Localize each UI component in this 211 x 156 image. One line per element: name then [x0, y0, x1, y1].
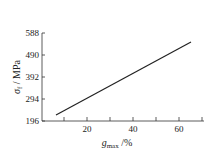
y-tick-588: 588 — [26, 28, 40, 38]
y-tick-294: 294 — [26, 94, 40, 104]
x-tick-40: 40 — [129, 124, 139, 134]
y-tick-392: 392 — [26, 72, 40, 82]
chart-canvas: 588 490 392 294 196 20 40 60 gmax /% σf … — [0, 0, 211, 156]
x-tick-20: 20 — [83, 124, 93, 134]
y-axis-title: σf / MPa — [11, 59, 24, 94]
data-line — [56, 42, 191, 115]
y-ticks — [42, 33, 45, 121]
x-tick-labels: 20 40 60 — [83, 124, 185, 134]
y-tick-labels: 588 490 392 294 196 — [26, 28, 40, 126]
x-ticks — [64, 117, 202, 121]
y-tick-196: 196 — [26, 116, 40, 126]
x-axis-title: gmax /% — [102, 137, 133, 150]
x-tick-60: 60 — [175, 124, 185, 134]
y-tick-490: 490 — [26, 50, 40, 60]
